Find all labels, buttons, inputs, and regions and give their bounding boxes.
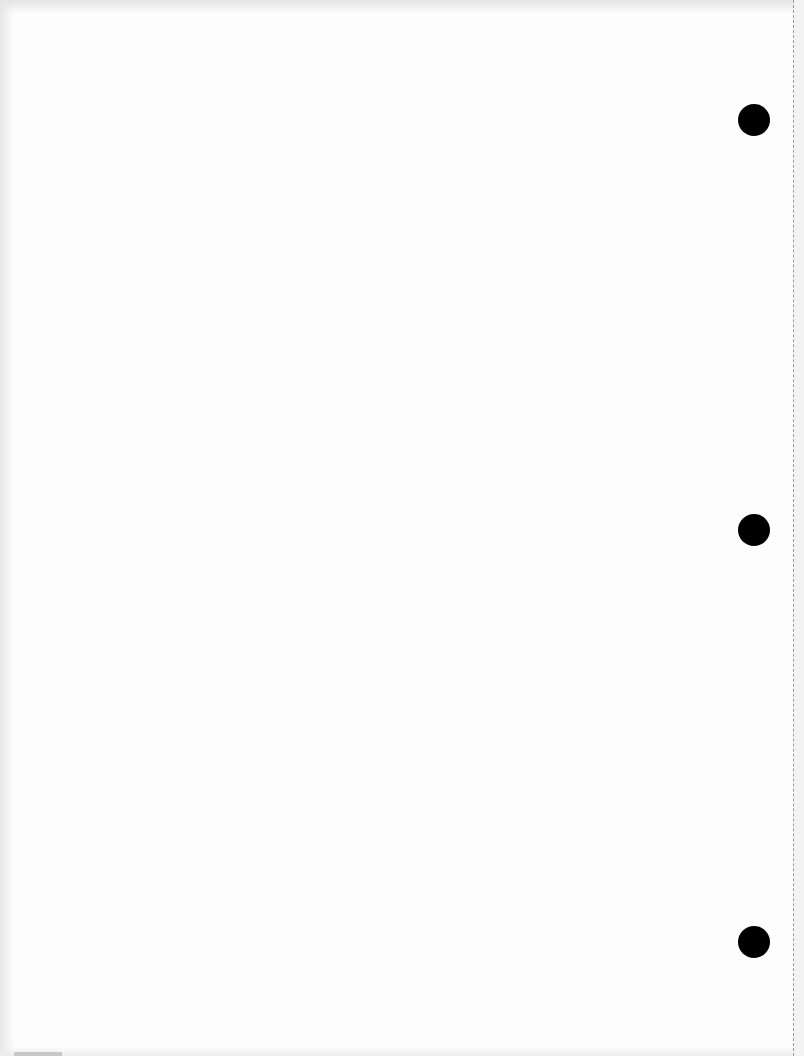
scan-shadow-top — [0, 0, 804, 14]
tear-off-strip — [794, 0, 804, 1056]
scan-shadow-left — [0, 0, 14, 1056]
punch-hole-top — [738, 104, 770, 136]
perforation-line — [793, 0, 794, 1056]
scan-artifact — [14, 1052, 62, 1056]
punch-hole-bottom — [738, 926, 770, 958]
scanned-blank-page — [0, 0, 804, 1056]
scan-shadow-bottom — [0, 1046, 804, 1056]
punch-hole-middle — [738, 514, 770, 546]
